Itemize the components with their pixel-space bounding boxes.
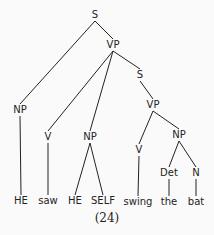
node-label-np: NP bbox=[83, 131, 97, 142]
tree-edge-VP2-NP3 bbox=[153, 111, 179, 129]
tree-edge-NP3-N bbox=[179, 141, 196, 167]
tree-edge-NP2-w4 bbox=[90, 143, 103, 195]
leaf-word-the: the bbox=[161, 196, 177, 207]
tree-edge-VP1-V1 bbox=[48, 51, 113, 131]
node-label-np: NP bbox=[172, 129, 186, 140]
tree-edge-VP1-NP2 bbox=[90, 51, 113, 131]
tree-edge-VP1-S2 bbox=[113, 51, 140, 69]
node-label-v: V bbox=[136, 144, 143, 155]
tree-edge-VP2-V2 bbox=[139, 111, 153, 144]
tree-nodes: SVPSNPVPVNPVNPDetNHEsawHESELFswingthebat bbox=[13, 9, 204, 207]
node-label-s: S bbox=[137, 69, 143, 80]
tree-edge-V2-w5 bbox=[138, 156, 139, 196]
tree-edge-S2-VP2 bbox=[140, 81, 153, 99]
tree-edge-S1-NP1 bbox=[20, 21, 95, 104]
leaf-word-he: HE bbox=[14, 195, 28, 206]
example-number-caption: (24) bbox=[95, 211, 120, 225]
tree-edge-NP3-Det bbox=[169, 141, 179, 167]
leaf-word-swing: swing bbox=[124, 196, 153, 207]
node-label-det: Det bbox=[160, 167, 178, 178]
node-label-vp: VP bbox=[147, 99, 160, 110]
tree-edge-S1-VP1 bbox=[95, 21, 113, 39]
tree-edge-NP2-w3 bbox=[75, 143, 90, 195]
leaf-word-self: SELF bbox=[91, 195, 115, 206]
leaf-word-he: HE bbox=[68, 195, 82, 206]
leaf-word-saw: saw bbox=[38, 195, 58, 206]
node-label-s: S bbox=[92, 9, 98, 20]
node-label-n: N bbox=[192, 167, 199, 178]
syntax-tree-diagram: SVPSNPVPVNPVNPDetNHEsawHESELFswingthebat… bbox=[0, 0, 214, 235]
node-label-vp: VP bbox=[107, 39, 120, 50]
leaf-word-bat: bat bbox=[188, 196, 204, 207]
node-label-v: V bbox=[45, 131, 52, 142]
tree-edge-NP1-w1 bbox=[20, 116, 21, 195]
node-label-np: NP bbox=[13, 104, 27, 115]
